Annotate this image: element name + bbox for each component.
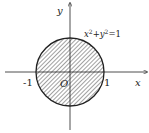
circle-equation-label: x2+y2=1: [84, 28, 121, 40]
y-axis-label: y: [56, 5, 63, 16]
tick-label-pos-one: 1: [104, 77, 110, 88]
unit-circle-diagram: y x O -1 1 x2+y2=1: [0, 0, 149, 133]
tick-label-neg-one: -1: [23, 77, 33, 88]
origin-label: O: [60, 78, 68, 89]
x-axis-label: x: [135, 77, 141, 88]
